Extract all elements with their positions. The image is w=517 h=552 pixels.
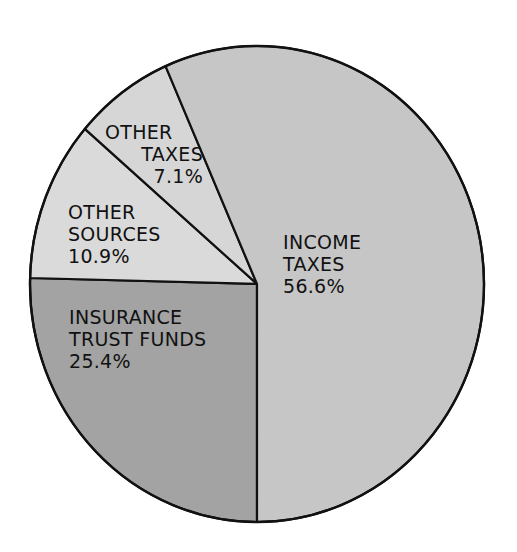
other-taxes-line1: OTHER: [105, 121, 203, 143]
other-taxes-line2: TAXES: [105, 143, 203, 165]
label-income-taxes: INCOME TAXES 56.6%: [283, 231, 361, 297]
label-other-taxes: OTHER TAXES 7.1%: [105, 121, 203, 187]
pie-slices: [30, 46, 484, 522]
income-taxes-line1: INCOME: [283, 231, 361, 253]
income-taxes-line2: TAXES: [283, 253, 361, 275]
insurance-line1: INSURANCE: [69, 306, 206, 328]
pie-chart: [0, 0, 517, 552]
income-taxes-value: 56.6%: [283, 275, 361, 297]
other-sources-line2: SOURCES: [68, 223, 161, 245]
label-insurance-trust-funds: INSURANCE TRUST FUNDS 25.4%: [69, 306, 206, 372]
other-sources-line1: OTHER: [68, 201, 161, 223]
other-sources-value: 10.9%: [68, 245, 161, 267]
insurance-value: 25.4%: [69, 350, 206, 372]
insurance-line2: TRUST FUNDS: [69, 328, 206, 350]
label-other-sources: OTHER SOURCES 10.9%: [68, 201, 161, 267]
other-taxes-value: 7.1%: [105, 165, 203, 187]
